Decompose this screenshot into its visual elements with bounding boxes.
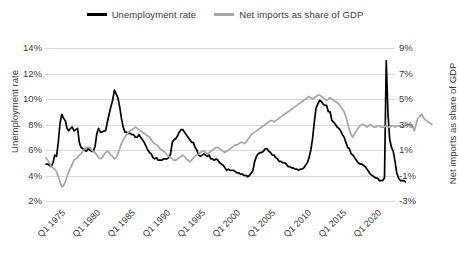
right-axis-tick-5: -1% — [399, 170, 416, 182]
gridlines — [46, 49, 395, 202]
left-axis-tick-5: 4% — [28, 170, 42, 182]
left-axis-tick-0: 14% — [23, 42, 42, 54]
right-axis-tick-1: 7% — [399, 68, 413, 80]
right-axis-tick-0: 9% — [399, 42, 413, 54]
right-axis-tick-6: -3% — [399, 195, 416, 207]
left-axis-tick-2: 10% — [23, 93, 42, 105]
left-axis-tick-4: 6% — [28, 144, 42, 156]
right-axis-tick-2: 5% — [399, 93, 413, 105]
series-lines — [46, 61, 432, 187]
right-axis-tick-3: 3% — [399, 119, 413, 131]
right-axis-tick-4: 1% — [399, 144, 413, 156]
left-axis-tick-3: 8% — [28, 119, 42, 131]
series-line-unemployment-rate — [46, 61, 406, 182]
left-axis-tick-1: 12% — [23, 68, 42, 80]
left-axis-tick-6: 2% — [28, 195, 42, 207]
